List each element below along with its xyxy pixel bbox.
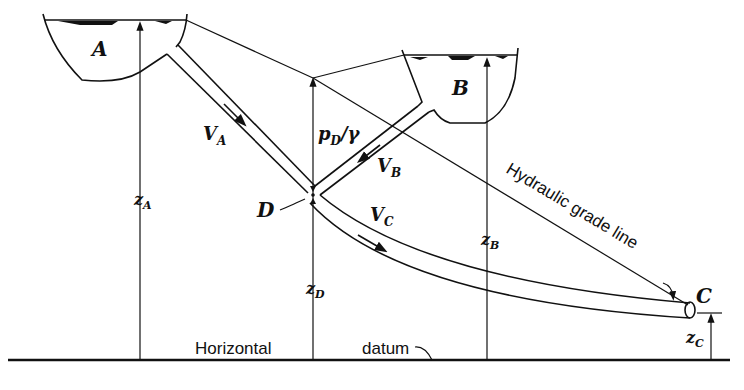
- elevation-c-label: zC: [685, 328, 704, 350]
- junction-arrow-bottom: [310, 198, 316, 204]
- water-hatch-b3: [495, 56, 508, 59]
- reservoir-b: B: [402, 48, 518, 123]
- three-reservoir-diagram: A B: [0, 0, 744, 390]
- water-hatch-b: [410, 57, 428, 60]
- elevation-a-label: zA: [133, 190, 152, 212]
- reservoir-b-outline: [429, 48, 518, 123]
- pipe-a: [167, 45, 315, 193]
- water-hatch-b2: [448, 56, 475, 60]
- labels: VA VB VC pD/γ D C zA zB zD zC Hydraulic …: [133, 123, 712, 358]
- reservoir-a-label: A: [90, 37, 108, 61]
- reservoir-a: A: [43, 14, 187, 81]
- elevation-d-label: zD: [305, 279, 325, 301]
- hgl-pointer-arrow: [663, 283, 673, 296]
- flow-arrow-c: [358, 235, 382, 249]
- velocity-a-label: VA: [203, 123, 226, 148]
- junction-arrow-top: [310, 186, 316, 192]
- pressure-head-label: pD/γ: [318, 123, 361, 148]
- pipe-b: [315, 106, 429, 195]
- outlet-c-label: C: [696, 284, 712, 308]
- water-hatch-a2: [155, 21, 172, 24]
- elevation-lines: [140, 26, 722, 360]
- junction-pointer: [280, 199, 305, 210]
- velocity-c-label: VC: [370, 204, 394, 229]
- reservoir-b-label: B: [451, 76, 469, 100]
- hydraulic-grade-line: [186, 20, 688, 305]
- datum-pointer: [415, 347, 432, 360]
- datum-label-datum: datum: [362, 339, 409, 358]
- datum-label-horizontal: Horizontal: [195, 339, 272, 358]
- pipe-c: [310, 195, 695, 318]
- junction-d-label: D: [256, 198, 275, 222]
- velocity-b-label: VB: [377, 155, 401, 180]
- junction-point: [311, 193, 315, 197]
- reservoir-a-outline-right: [176, 14, 187, 47]
- elevation-b-label: zB: [480, 230, 499, 252]
- water-hatch-a: [58, 21, 118, 25]
